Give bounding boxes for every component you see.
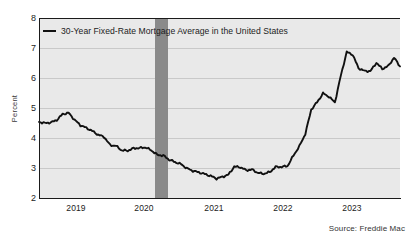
x-tick-2023: 2023 [332,203,372,213]
y-tick-3: 3 [18,164,36,173]
y-axis-ticks: 8 7 6 5 4 3 2 [14,0,36,238]
legend-line-swatch [43,30,56,32]
x-axis-line [39,198,401,199]
mortgage-rate-line [39,19,400,199]
legend-label: 30-Year Fixed-Rate Mortgage Average in t… [61,26,288,36]
x-tick-2019: 2019 [56,203,96,213]
x-tick-2022: 2022 [263,203,303,213]
y-tick-7: 7 [18,44,36,53]
plot-area [39,18,400,199]
y-tick-6: 6 [18,74,36,83]
chart-container: Percent 8 7 6 5 4 3 2 2019 2020 2021 202… [0,0,415,238]
x-tick-2021: 2021 [194,203,234,213]
x-tick-2020: 2020 [124,203,164,213]
chart-legend: 30-Year Fixed-Rate Mortgage Average in t… [43,26,288,36]
y-tick-2: 2 [18,194,36,203]
y-tick-8: 8 [18,14,36,23]
source-attribution: Source: Freddie Mac [329,224,405,233]
y-tick-5: 5 [18,104,36,113]
y-tick-4: 4 [18,134,36,143]
y-axis-line [39,18,40,199]
